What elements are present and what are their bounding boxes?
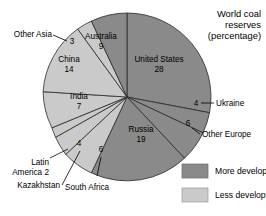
callout-label-other-asia: Other Asia bbox=[14, 30, 53, 39]
leader-line-other-asia bbox=[53, 35, 67, 41]
slice-value-kazakhstan: 4 bbox=[77, 139, 82, 148]
chart-title-line1: World coal bbox=[217, 8, 261, 19]
slice-value-china: 14 bbox=[64, 65, 74, 74]
pie-slices bbox=[43, 13, 211, 181]
slice-label-australia: Australia bbox=[85, 32, 117, 41]
callout-label-south-africa: South Africa bbox=[65, 183, 110, 192]
chart-title-line2: reserves bbox=[225, 19, 261, 30]
callout-label-latin-america-line1: Latin bbox=[31, 158, 49, 167]
legend-swatch-more-developed bbox=[182, 164, 208, 178]
callout-label-ukraine: Ukraine bbox=[216, 99, 245, 108]
slice-value-india: 7 bbox=[77, 102, 82, 111]
legend-label-more-developed: More developed bbox=[215, 166, 266, 176]
callout-label-latin-america-line2: America 2 bbox=[12, 168, 49, 177]
slice-label-china: China bbox=[58, 55, 80, 64]
slice-value-australia: 9 bbox=[99, 42, 104, 51]
legend-label-less-developed: Less developed bbox=[215, 190, 266, 200]
slice-label-india: India bbox=[70, 92, 88, 101]
slice-value-south-africa: 6 bbox=[99, 145, 104, 154]
pie-chart-figure: United States 28 Russia 19 Australia 9 C… bbox=[0, 0, 266, 216]
slice-label-united-states: United States bbox=[134, 55, 183, 64]
legend-swatch-less-developed bbox=[182, 188, 208, 202]
callout-label-other-europe: Other Europe bbox=[202, 130, 252, 139]
chart-title: World coal reserves (percentage) bbox=[208, 8, 261, 41]
slice-label-russia: Russia bbox=[128, 125, 153, 134]
slice-value-other-asia: 3 bbox=[70, 37, 75, 46]
chart-legend: More developed Less developed bbox=[182, 164, 266, 202]
slice-value-other-europe: 6 bbox=[186, 119, 191, 128]
slice-value-russia: 19 bbox=[136, 135, 146, 144]
chart-canvas: United States 28 Russia 19 Australia 9 C… bbox=[0, 0, 266, 216]
chart-title-line3: (percentage) bbox=[208, 30, 261, 41]
slice-value-ukraine: 4 bbox=[194, 99, 199, 108]
slice-value-united-states: 28 bbox=[154, 65, 164, 74]
callout-label-kazakhstan: Kazakhstan bbox=[17, 181, 60, 190]
